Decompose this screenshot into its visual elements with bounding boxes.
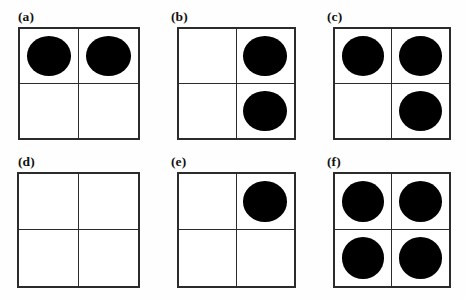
panel-a-grid <box>18 27 140 140</box>
panel-a-cell-bottom-left[interactable] <box>20 84 79 139</box>
panel-a-cell-top-left[interactable] <box>20 29 79 84</box>
panel-f-cell-top-right[interactable] <box>392 174 449 230</box>
panel-a-cell-top-right[interactable] <box>79 29 138 84</box>
filled-circle <box>27 36 71 76</box>
panel-f-label: (f) <box>327 155 341 169</box>
panel-b-label: (b) <box>171 10 188 24</box>
filled-circle <box>86 36 131 76</box>
filled-circle <box>399 237 442 278</box>
figure-canvas: (a) (b) (c) (d) <box>0 0 465 300</box>
panel-d-label: (d) <box>18 155 35 169</box>
panel-f-cell-bottom-left[interactable] <box>335 230 392 286</box>
panel-d-grid <box>17 172 140 288</box>
panel-e-cell-bottom-left[interactable] <box>179 230 237 286</box>
panel-c-cell-bottom-right[interactable] <box>392 84 449 139</box>
panel-e-grid <box>177 172 296 288</box>
panel-d-cell-top-left[interactable] <box>19 174 79 230</box>
panel-b-grid <box>177 27 296 140</box>
panel-c-label: (c) <box>327 10 342 24</box>
panel-b-cell-bottom-right[interactable] <box>237 84 295 139</box>
panel-a-cell-bottom-right[interactable] <box>79 84 138 139</box>
panel-b-cell-top-left[interactable] <box>179 29 237 84</box>
panel-d-cell-top-right[interactable] <box>79 174 139 230</box>
filled-circle <box>243 181 287 222</box>
panel-c-cell-bottom-left[interactable] <box>335 84 392 139</box>
panel-f-cell-bottom-right[interactable] <box>392 230 449 286</box>
filled-circle <box>243 36 287 76</box>
panel-d-cell-bottom-right[interactable] <box>79 230 139 286</box>
panel-e-cell-top-right[interactable] <box>237 174 295 230</box>
panel-c-grid <box>333 27 451 140</box>
filled-circle <box>342 237 385 278</box>
filled-circle <box>342 36 385 76</box>
filled-circle <box>399 181 442 222</box>
panel-c-cell-top-left[interactable] <box>335 29 392 84</box>
panel-e-label: (e) <box>171 155 186 169</box>
panel-b-cell-bottom-left[interactable] <box>179 84 237 139</box>
panel-a-label: (a) <box>18 10 34 24</box>
panel-f-grid <box>333 172 451 288</box>
panel-c-cell-top-right[interactable] <box>392 29 449 84</box>
panel-d-cell-bottom-left[interactable] <box>19 230 79 286</box>
panel-e-cell-bottom-right[interactable] <box>237 230 295 286</box>
panel-e-cell-top-left[interactable] <box>179 174 237 230</box>
panel-b-cell-top-right[interactable] <box>237 29 295 84</box>
filled-circle <box>399 91 442 131</box>
filled-circle <box>399 36 442 76</box>
filled-circle <box>342 181 385 222</box>
filled-circle <box>243 91 287 131</box>
panel-f-cell-top-left[interactable] <box>335 174 392 230</box>
